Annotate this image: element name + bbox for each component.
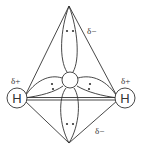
delta-minus-bottom: δ−: [95, 126, 104, 136]
bond-lobe-left: [24, 77, 63, 98]
edge-bottom-right: [69, 100, 118, 143]
h-left-label: H: [12, 91, 21, 106]
delta-plus-left: δ+: [11, 76, 20, 86]
edge-top-left: [24, 6, 69, 98]
oxygen-nucleus: [62, 72, 78, 88]
delta-minus-top: δ−: [87, 26, 96, 36]
lone-pair-lobe-bottom: [61, 88, 79, 143]
delta-plus-right: δ+: [121, 76, 130, 86]
water-molecule-diagram: H H δ+ δ+ δ− δ−: [0, 0, 143, 148]
h-right-label: H: [120, 91, 129, 106]
edge-bottom-left: [24, 100, 69, 143]
